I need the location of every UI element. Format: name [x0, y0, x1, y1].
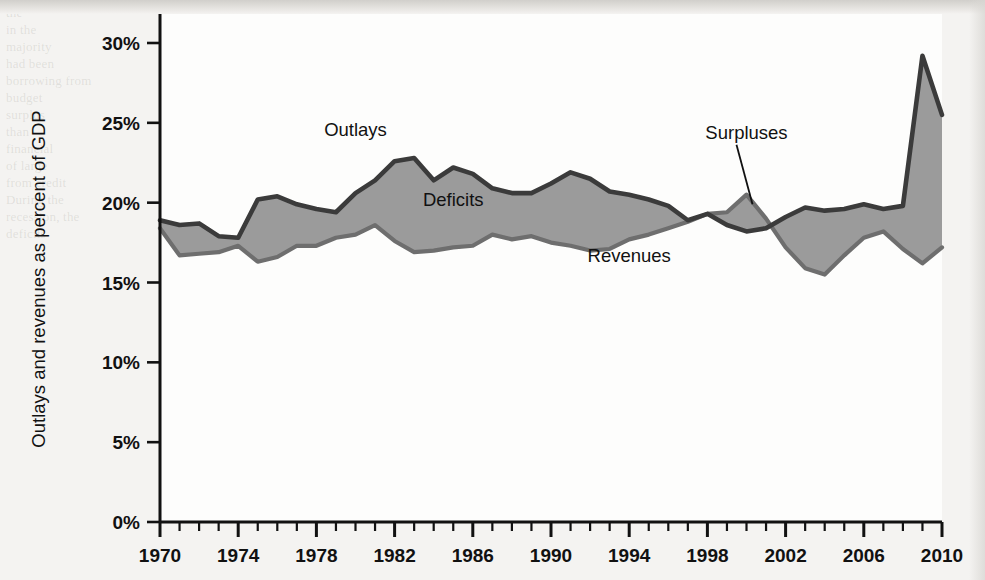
- x-tick-label: 1986: [452, 545, 494, 566]
- x-tick-label: 2006: [843, 545, 885, 566]
- y-tick-label: 20%: [102, 193, 140, 214]
- annotation-deficits: Deficits: [423, 189, 484, 210]
- y-tick-label: 10%: [102, 352, 140, 373]
- x-tick-label: 1994: [608, 545, 651, 566]
- annotation-outlays: Outlays: [324, 119, 387, 140]
- x-tick-label: 1978: [295, 545, 337, 566]
- x-tick-label: 2010: [921, 545, 963, 566]
- x-tick-label: 1990: [530, 545, 572, 566]
- y-tick-label: 5%: [113, 432, 141, 453]
- y-tick-label: 25%: [102, 113, 140, 134]
- chart-figure: the in the majority had been borrowing f…: [0, 0, 985, 580]
- x-tick-label: 1982: [373, 545, 415, 566]
- x-tick-label: 1970: [139, 545, 181, 566]
- annotation-surpluses: Surpluses: [705, 122, 787, 143]
- x-tick-label: 2002: [764, 545, 806, 566]
- x-tick-label: 1974: [217, 545, 260, 566]
- x-tick-label: 1998: [686, 545, 728, 566]
- x-axis-ticks: 1970197419781982198619901994199820022006…: [139, 522, 963, 566]
- y-tick-label: 30%: [102, 33, 140, 54]
- chart-canvas: 0%5%10%15%20%25%30% 19701974197819821986…: [0, 0, 985, 580]
- y-tick-label: 0%: [113, 512, 141, 533]
- y-tick-label: 15%: [102, 273, 140, 294]
- y-axis-ticks: 0%5%10%15%20%25%30%: [102, 33, 160, 533]
- annotation-revenues: Revenues: [588, 245, 671, 266]
